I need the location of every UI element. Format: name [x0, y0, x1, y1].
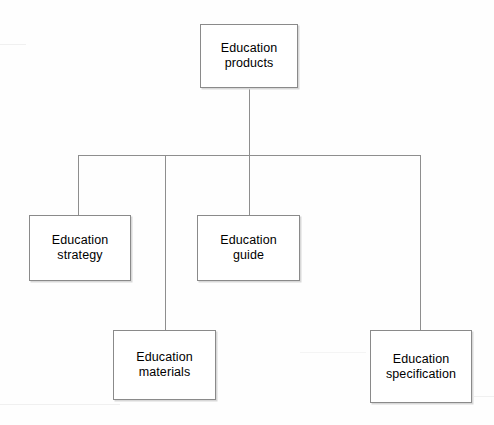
scan-artifact	[474, 396, 494, 397]
node-education-guide[interactable]: Education guide	[197, 215, 300, 281]
node-label-education-specification: Education specification	[386, 352, 456, 382]
node-label-education-products: Education products	[221, 41, 278, 71]
scan-artifact	[0, 404, 120, 405]
node-label-education-materials: Education materials	[136, 350, 193, 380]
scan-artifact	[0, 44, 26, 45]
connector-drop-materials	[165, 155, 166, 330]
node-education-strategy[interactable]: Education strategy	[29, 215, 131, 281]
node-education-products[interactable]: Education products	[200, 24, 298, 88]
node-education-specification[interactable]: Education specification	[370, 330, 472, 403]
diagram-canvas: Education products Education strategy Ed…	[0, 0, 494, 425]
connector-drop-guide	[249, 155, 250, 215]
scan-artifact	[300, 352, 366, 353]
connector-drop-specification	[420, 155, 421, 330]
connector-root-stem	[249, 88, 250, 155]
node-label-education-strategy: Education strategy	[52, 233, 109, 263]
node-education-materials[interactable]: Education materials	[113, 330, 216, 400]
node-label-education-guide: Education guide	[220, 233, 277, 263]
connector-drop-strategy	[78, 155, 79, 215]
